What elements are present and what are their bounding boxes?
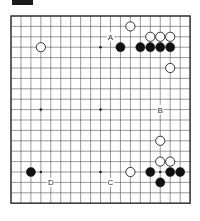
black-stone	[136, 43, 145, 52]
black-stone	[146, 43, 155, 52]
black-stone	[176, 167, 185, 176]
point-label-a: A	[108, 33, 114, 42]
point-label-d: D	[48, 178, 54, 187]
point-label-b: B	[158, 106, 163, 115]
black-stone	[26, 167, 35, 176]
point-label-c: C	[108, 178, 114, 187]
white-stone	[166, 63, 175, 72]
white-stone	[166, 32, 175, 41]
star-point	[99, 171, 102, 174]
star-point	[40, 171, 43, 174]
go-board: ABCD	[0, 0, 200, 221]
black-stone	[156, 178, 165, 187]
white-stone	[156, 32, 165, 41]
white-stone	[36, 43, 45, 52]
white-stone	[126, 167, 135, 176]
white-stone	[146, 32, 155, 41]
black-stone	[156, 43, 165, 52]
stones	[26, 22, 184, 187]
black-stone	[166, 43, 175, 52]
black-stone	[116, 43, 125, 52]
white-stone	[126, 22, 135, 31]
white-stone	[156, 136, 165, 145]
white-stone	[156, 157, 165, 166]
star-point	[99, 108, 102, 111]
star-point	[99, 46, 102, 49]
white-stone	[166, 157, 175, 166]
star-point	[40, 108, 43, 111]
black-stone	[166, 167, 175, 176]
black-stone	[146, 167, 155, 176]
star-point	[159, 171, 162, 174]
